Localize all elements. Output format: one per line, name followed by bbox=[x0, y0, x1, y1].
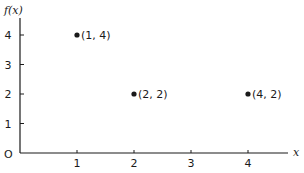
point-marker bbox=[131, 91, 136, 96]
x-tick-label: 3 bbox=[188, 157, 195, 170]
x-tick-label: 4 bbox=[245, 157, 252, 170]
point-marker bbox=[245, 91, 250, 96]
y-tick-label: 4 bbox=[5, 29, 12, 42]
y-tick-label: 1 bbox=[5, 118, 12, 131]
data-points: (1, 4)(2, 2)(4, 2) bbox=[74, 29, 281, 101]
data-point: (1, 4) bbox=[74, 29, 110, 42]
scatter-chart: 12341234 (1, 4)(2, 2)(4, 2) f(x) x O bbox=[0, 0, 304, 173]
data-point: (4, 2) bbox=[245, 88, 281, 101]
x-axis-title: x bbox=[293, 146, 300, 159]
data-point: (2, 2) bbox=[131, 88, 167, 101]
point-marker bbox=[74, 32, 79, 37]
ticks: 12341234 bbox=[5, 29, 252, 170]
x-tick-label: 1 bbox=[74, 157, 81, 170]
axes bbox=[20, 18, 288, 153]
y-tick-label: 3 bbox=[5, 59, 12, 72]
y-tick-label: 2 bbox=[5, 88, 12, 101]
x-tick-label: 2 bbox=[131, 157, 138, 170]
point-label: (4, 2) bbox=[252, 88, 282, 101]
point-label: (2, 2) bbox=[138, 88, 168, 101]
y-axis-title: f(x) bbox=[3, 4, 23, 17]
origin-label: O bbox=[4, 148, 13, 161]
point-label: (1, 4) bbox=[81, 29, 111, 42]
